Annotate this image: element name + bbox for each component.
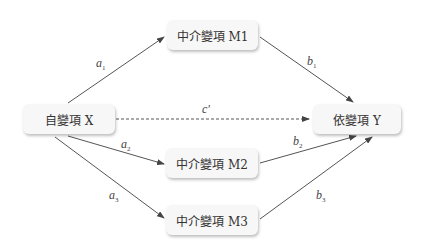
arrow-b3 [260, 137, 372, 219]
label-a2: a2 [121, 137, 131, 153]
node-x-label: 自變項 X [45, 111, 93, 128]
node-m3: 中介變項 M3 [166, 205, 258, 235]
node-m2-label: 中介變項 M2 [176, 155, 248, 172]
arrow-a1 [68, 37, 164, 103]
node-m1-label: 中介變項 M1 [177, 27, 249, 44]
label-b1: b1 [307, 54, 317, 70]
node-x: 自變項 X [23, 104, 115, 134]
label-a1: a1 [96, 56, 106, 72]
label-b2: b2 [293, 134, 303, 150]
arrow-a3 [55, 137, 164, 218]
label-c-prime: c' [202, 102, 210, 117]
arrow-a2 [68, 136, 164, 164]
node-y-label: 依變項 Y [333, 111, 381, 128]
node-y: 依變項 Y [313, 104, 401, 134]
label-b3: b3 [316, 188, 326, 204]
label-a3: a3 [109, 188, 119, 204]
node-m2: 中介變項 M2 [166, 148, 258, 178]
node-m1: 中介變項 M1 [167, 20, 258, 50]
node-m3-label: 中介變項 M3 [176, 212, 248, 229]
